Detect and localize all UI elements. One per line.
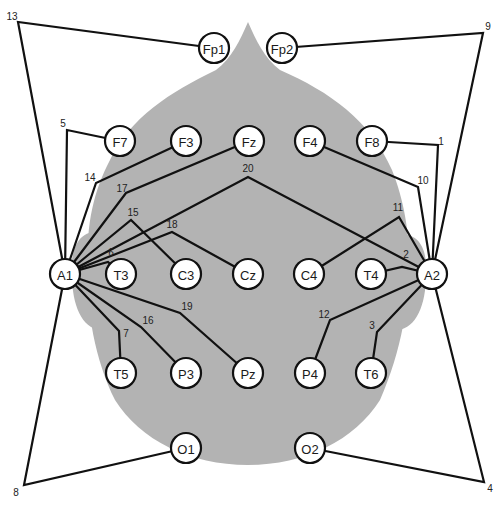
electrode-a2: A2 — [417, 259, 447, 289]
electrode-label: A2 — [424, 268, 440, 283]
electrode-label: Pz — [240, 367, 255, 382]
derivation-number: 12 — [318, 309, 330, 320]
electrode-f7: F7 — [105, 126, 135, 156]
electrode-a1: A1 — [50, 259, 80, 289]
electrode-label: F8 — [364, 135, 379, 150]
electrode-cz: Cz — [233, 259, 263, 289]
electrode-fp2: Fp2 — [267, 33, 297, 63]
derivation-number: 13 — [6, 11, 18, 22]
derivation-number: 2 — [403, 249, 409, 260]
electrode-c3: C3 — [171, 259, 201, 289]
derivation-number: 5 — [60, 118, 66, 129]
electrode-pz: Pz — [233, 358, 263, 388]
electrode-label: T5 — [113, 367, 128, 382]
head-shape — [88, 22, 409, 465]
derivation-number: 9 — [485, 21, 491, 32]
electrode-f4: F4 — [295, 126, 325, 156]
electrode-fp1: Fp1 — [199, 33, 229, 63]
derivation-number: 11 — [393, 202, 404, 213]
electrode-label: F7 — [112, 135, 127, 150]
electrode-label: Fp2 — [271, 42, 293, 57]
electrode-fz: Fz — [234, 126, 264, 156]
electrode-label: C4 — [301, 268, 318, 283]
derivation-number: 10 — [417, 175, 429, 186]
electrode-label: P4 — [302, 367, 318, 382]
electrode-label: F3 — [178, 135, 193, 150]
electrode-label: P3 — [178, 367, 194, 382]
electrode-t5: T5 — [106, 358, 136, 388]
electrode-label: T6 — [363, 367, 378, 382]
electrode-label: Cz — [240, 268, 256, 283]
derivation-number: 15 — [127, 207, 139, 218]
electrode-label: T3 — [113, 268, 128, 283]
electrode-o2: O2 — [295, 433, 325, 463]
derivation-number: 3 — [369, 320, 375, 331]
eeg-montage-diagram: 1234567891011121314151617181920 Fp1Fp2F7… — [0, 0, 504, 509]
electrode-f3: F3 — [171, 126, 201, 156]
electrode-label: C3 — [178, 268, 195, 283]
electrode-label: Fz — [242, 135, 256, 150]
derivation-number: 7 — [123, 328, 129, 339]
derivation-number: 17 — [116, 183, 128, 194]
electrode-label: A1 — [57, 268, 73, 283]
electrode-o1: O1 — [171, 433, 201, 463]
derivation-number: 8 — [13, 487, 19, 498]
diagram-canvas: 1234567891011121314151617181920 Fp1Fp2F7… — [0, 0, 504, 509]
derivation-number: 18 — [166, 219, 178, 230]
derivation-number: 16 — [142, 315, 154, 326]
derivation-number: 4 — [487, 483, 493, 494]
electrode-p4: P4 — [295, 358, 325, 388]
electrode-f8: F8 — [357, 126, 387, 156]
derivation-number: 14 — [84, 172, 96, 183]
derivation-number: 1 — [438, 136, 444, 147]
electrode-label: F4 — [302, 135, 317, 150]
electrode-t6: T6 — [356, 358, 386, 388]
electrode-label: T4 — [363, 268, 378, 283]
electrode-t4: T4 — [356, 259, 386, 289]
electrode-label: O1 — [177, 442, 194, 457]
derivation-number: 6 — [108, 247, 114, 258]
electrode-label: O2 — [301, 442, 318, 457]
electrode-t3: T3 — [106, 259, 136, 289]
electrode-c4: C4 — [294, 259, 324, 289]
electrode-label: Fp1 — [203, 42, 225, 57]
derivation-number: 19 — [181, 301, 193, 312]
derivation-number: 20 — [242, 163, 254, 174]
electrode-p3: P3 — [171, 358, 201, 388]
